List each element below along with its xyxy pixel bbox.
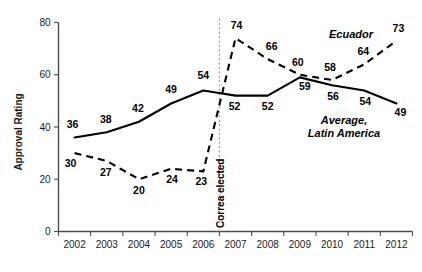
data-label-average: 42 [132,102,144,114]
series-annotation-average-line2: Latin America [308,127,380,139]
data-label-ecuador: 30 [65,157,77,169]
data-label-average: 49 [395,106,407,118]
x-tick-label: 2010 [321,239,344,250]
data-label-ecuador: 66 [266,40,278,52]
data-label-average: 36 [67,118,79,130]
data-label-average: 49 [165,83,177,95]
series-annotation-average-line1: Average, [320,114,367,126]
x-tick-label: 2002 [63,239,86,250]
data-label-ecuador: 64 [357,45,369,57]
labels-group: 3638424954525259565449302720242374666058… [65,19,407,196]
chart-container: 020406080Approval Rating 200220032004200… [0,0,422,272]
y-axis-group: 020406080Approval Rating [13,17,59,237]
x-tick-label: 2006 [192,239,215,250]
y-tick-label: 60 [39,69,51,80]
data-label-average: 56 [327,90,339,102]
x-tick-label: 2008 [257,239,280,250]
x-tick-label: 2005 [160,239,183,250]
data-label-ecuador: 27 [100,166,112,178]
y-tick-label: 80 [39,17,51,28]
x-tick-label: 2004 [128,239,151,250]
x-tick-label: 2003 [96,239,119,250]
x-tick-label: 2011 [353,239,375,250]
data-label-ecuador: 73 [393,22,405,34]
series-annotation-ecuador: Ecuador [329,28,374,40]
data-label-ecuador: 20 [133,184,145,196]
approval-rating-line-chart: 020406080Approval Rating 200220032004200… [0,0,422,272]
data-label-average: 54 [359,95,371,107]
data-label-average: 59 [299,80,311,92]
data-label-average: 54 [197,69,209,81]
x-tick-label: 2007 [224,239,247,250]
data-label-ecuador: 58 [324,61,336,73]
y-tick-label: 20 [39,174,51,185]
correa-elected-label: Correa elected [215,159,226,228]
y-axis-title: Approval Rating [13,93,24,170]
data-label-ecuador: 60 [292,56,304,68]
data-label-average: 38 [100,113,112,125]
data-label-ecuador: 24 [166,173,178,185]
data-label-average: 52 [262,100,274,112]
y-tick-label: 40 [39,122,51,133]
data-label-ecuador: 23 [195,175,207,187]
x-tick-label: 2012 [385,239,408,250]
x-tick-label: 2009 [289,239,312,250]
data-label-average: 52 [229,100,241,112]
data-label-ecuador: 74 [231,19,243,31]
y-tick-label: 0 [45,226,51,237]
